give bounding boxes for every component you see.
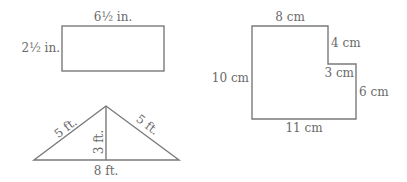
l-shape-lower-right-label: 6 cm [359, 85, 389, 99]
l-shape-step-label: 3 cm [324, 66, 354, 80]
geometry-figures: 6½ in. 2½ in. 5 ft. 5 ft. 3 ft. 8 ft. 8 … [0, 0, 407, 182]
triangle-height-label: 3 ft. [92, 130, 106, 155]
l-shape-left-label: 10 cm [212, 71, 250, 85]
l-shape-figure: 8 cm 4 cm 3 cm 6 cm 10 cm 11 cm [212, 10, 389, 135]
triangle-base-label: 8 ft. [94, 164, 119, 178]
l-shape-bottom-label: 11 cm [285, 121, 323, 135]
rectangle-figure: 6½ in. 2½ in. [22, 10, 164, 71]
l-shape-upper-right-label: 4 cm [331, 36, 361, 50]
rectangle-shape [62, 26, 164, 71]
triangle-right-side-label: 5 ft. [133, 112, 161, 138]
rectangle-width-label: 6½ in. [94, 10, 132, 24]
rectangle-height-label: 2½ in. [22, 41, 60, 55]
triangle-figure: 5 ft. 5 ft. 3 ft. 8 ft. [34, 106, 179, 178]
l-shape-top-label: 8 cm [275, 10, 305, 24]
